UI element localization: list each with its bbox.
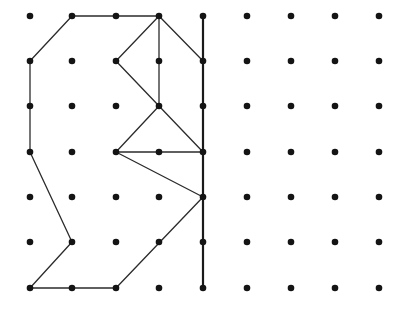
grid-dot [288, 13, 295, 20]
grid-dot [288, 58, 295, 65]
grid-dot [27, 239, 34, 246]
shape-segment [159, 106, 203, 152]
grid-dot [244, 194, 251, 201]
grid-dot [156, 149, 163, 156]
grid-dot [69, 194, 76, 201]
grid-dot [200, 285, 207, 292]
dot-grid [27, 13, 383, 292]
grid-dot [69, 239, 76, 246]
shape-segment [30, 242, 72, 288]
grid-dot [200, 103, 207, 110]
grid-dot [69, 149, 76, 156]
shape-segment [116, 152, 203, 197]
grid-dot [113, 58, 120, 65]
grid-dot [200, 239, 207, 246]
grid-dot [376, 13, 383, 20]
grid-dot [27, 285, 34, 292]
shape-segment [30, 152, 72, 242]
grid-dot [27, 103, 34, 110]
grid-dot [27, 58, 34, 65]
grid-dot [113, 103, 120, 110]
grid-dot [156, 58, 163, 65]
grid-dot [113, 285, 120, 292]
grid-dot [200, 194, 207, 201]
grid-dot [244, 58, 251, 65]
grid-dot [69, 103, 76, 110]
shape-segment [30, 16, 72, 61]
grid-dot [27, 149, 34, 156]
grid-dot [332, 194, 339, 201]
grid-dot [156, 194, 163, 201]
grid-dot [156, 103, 163, 110]
grid-dot [288, 285, 295, 292]
shape-segment [116, 16, 159, 61]
grid-dot [200, 13, 207, 20]
grid-dot [288, 194, 295, 201]
grid-dot [200, 58, 207, 65]
grid-dot [113, 239, 120, 246]
grid-dot [69, 58, 76, 65]
grid-dot [69, 285, 76, 292]
grid-dot [376, 285, 383, 292]
grid-dot [27, 13, 34, 20]
dot-grid-diagram [0, 0, 407, 314]
grid-dot [332, 239, 339, 246]
grid-dot [156, 285, 163, 292]
grid-dot [244, 285, 251, 292]
grid-dot [156, 239, 163, 246]
grid-dot [332, 13, 339, 20]
shape-segment [116, 106, 159, 152]
grid-dot [113, 194, 120, 201]
grid-dot [332, 103, 339, 110]
grid-dot [376, 103, 383, 110]
shape-segment [159, 16, 203, 61]
grid-dot [332, 58, 339, 65]
grid-dot [244, 103, 251, 110]
grid-dot [200, 149, 207, 156]
grid-dot [69, 13, 76, 20]
grid-dot [376, 194, 383, 201]
grid-dot [376, 239, 383, 246]
grid-dot [332, 285, 339, 292]
grid-dot [332, 149, 339, 156]
grid-dot [288, 239, 295, 246]
grid-dot [113, 13, 120, 20]
grid-dot [244, 239, 251, 246]
grid-dot [113, 149, 120, 156]
grid-dot [288, 149, 295, 156]
grid-dot [376, 58, 383, 65]
grid-dot [27, 194, 34, 201]
grid-dot [376, 149, 383, 156]
shape-segment [116, 61, 159, 106]
grid-dot [244, 13, 251, 20]
grid-dot [244, 149, 251, 156]
grid-dot [156, 13, 163, 20]
grid-dot [288, 103, 295, 110]
